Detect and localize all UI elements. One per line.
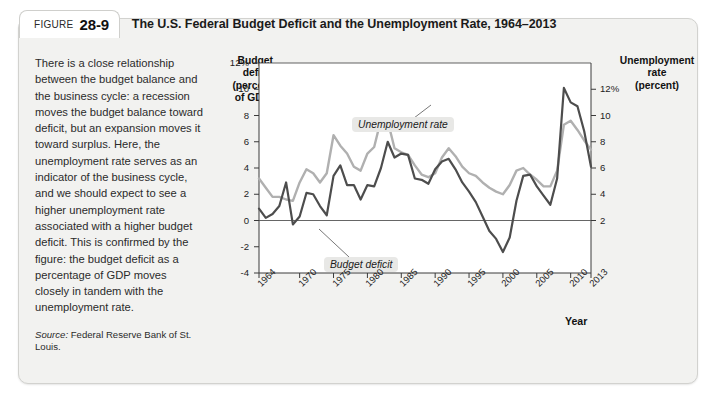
y2-axis-tick-label: 6 — [600, 162, 630, 173]
y-axis-tick-label: 10 — [219, 83, 249, 94]
y-axis-tick-label: 0 — [219, 215, 249, 226]
y-axis-tick-label: -4 — [219, 267, 249, 278]
y2-axis-tick-label: 8 — [600, 136, 630, 147]
y-axis-tick-label: -2 — [219, 241, 249, 252]
y2-axis-tick-label: 2 — [600, 215, 630, 226]
figure-page: Figure 28-9 The U.S. Federal Budget Defi… — [0, 0, 716, 402]
y-axis-tick-label: 6 — [219, 136, 249, 147]
series-label-deficit: Budget deficit — [324, 257, 398, 272]
figure-card: Figure 28-9 The U.S. Federal Budget Defi… — [18, 18, 698, 384]
chart-plot — [19, 19, 699, 385]
chart-area: Budget deficit (percent of GDP) Unemploy… — [19, 19, 697, 383]
y-axis-tick-label: 2 — [219, 188, 249, 199]
y-axis-tick-label: 8 — [219, 110, 249, 121]
y-axis-tick-label: 12% — [219, 57, 249, 68]
x-axis-title: Year — [565, 315, 587, 327]
y-axis-tick-label: 4 — [219, 162, 249, 173]
y2-axis-tick-label: 12% — [600, 83, 630, 94]
y2-axis-tick-label: 4 — [600, 188, 630, 199]
series-label-unemployment: Unemployment rate — [352, 117, 454, 132]
y2-axis-tick-label: 10 — [600, 110, 630, 121]
